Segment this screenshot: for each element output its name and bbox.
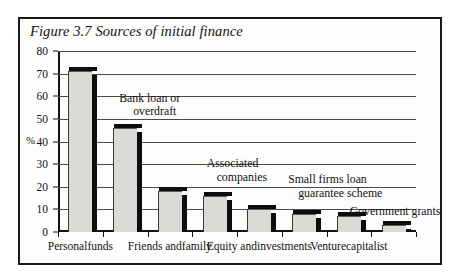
- gridline: [58, 142, 416, 143]
- gridline: [58, 119, 416, 120]
- x-label-line2: capitalist: [346, 240, 388, 252]
- bar: [113, 128, 137, 232]
- x-tick-mark: [282, 232, 283, 237]
- bar-shadow-right: [406, 229, 411, 232]
- y-tick-mark: [53, 118, 58, 119]
- chart-plot-area: 80706050403020100 % PersonalfundsFriends…: [58, 51, 416, 232]
- x-axis-label: Personalfunds: [48, 240, 113, 253]
- y-tick-mark: [53, 96, 58, 97]
- x-label-line2: investments: [257, 240, 312, 252]
- x-tick-mark: [148, 232, 149, 237]
- y-tick-label: 80: [37, 45, 49, 57]
- gridline: [58, 51, 416, 52]
- x-tick-mark: [192, 232, 193, 237]
- y-tick-label: 0: [42, 226, 48, 238]
- bar: [203, 196, 227, 232]
- figure-title: Figure 3.7 Sources of initial finance: [30, 23, 243, 40]
- bar-face-top: [293, 214, 316, 215]
- y-tick-mark: [53, 51, 58, 52]
- x-tick-mark: [237, 232, 238, 237]
- bar-annotation: Bank loan oroverdraft: [119, 92, 180, 119]
- annotation-line2: overdraft: [119, 105, 180, 119]
- y-tick-mark: [53, 73, 58, 74]
- bar-shadow-right: [227, 200, 232, 232]
- bar-shadow-right: [92, 75, 97, 232]
- bar-face-top: [159, 191, 182, 192]
- y-tick-label: 70: [37, 68, 49, 80]
- bar: [382, 225, 406, 232]
- y-tick-label: 40: [37, 136, 49, 148]
- x-tick-mark: [58, 232, 59, 237]
- annotation-line1: Associated: [207, 156, 259, 170]
- bar: [158, 191, 182, 232]
- bar-face-top: [383, 225, 406, 226]
- annotation-line2: guarantee scheme: [288, 187, 382, 201]
- bar-annotation: Small firms loanguarantee scheme: [288, 173, 382, 200]
- x-label-line2: funds: [87, 240, 113, 252]
- bar-face-top: [69, 71, 92, 72]
- annotation-line1: Government grants: [350, 204, 441, 218]
- x-label-line1: Venture: [310, 240, 346, 252]
- y-tick-label: 10: [37, 203, 49, 215]
- annotation-line2: companies: [207, 171, 267, 185]
- bar-shadow-right: [316, 218, 321, 232]
- y-tick-mark: [53, 164, 58, 165]
- y-tick-label: 20: [37, 181, 49, 193]
- bar-face-top: [114, 128, 137, 129]
- y-tick-mark: [53, 209, 58, 210]
- y-tick-mark: [53, 186, 58, 187]
- y-tick-label: 60: [37, 90, 49, 102]
- bar-face-top: [204, 196, 227, 197]
- bar-shadow-right: [271, 213, 276, 232]
- x-label-line1: Equity and: [207, 240, 257, 252]
- gridline: [58, 96, 416, 97]
- bar-shadow-right: [137, 132, 142, 232]
- x-tick-mark: [327, 232, 328, 237]
- x-tick-mark: [103, 232, 104, 237]
- bar: [292, 214, 316, 232]
- y-tick-label: 50: [37, 113, 49, 125]
- x-axis-label: Friends andfamily: [128, 240, 212, 253]
- bar-face-top: [248, 209, 271, 210]
- x-label-line1: Friends and: [128, 240, 182, 252]
- y-tick-label: 30: [37, 158, 49, 170]
- x-axis-label: Equity andinvestments: [207, 240, 312, 253]
- y-axis-unit-label: %: [26, 134, 35, 146]
- bar: [247, 209, 271, 232]
- annotation-line1: Small firms loan: [288, 172, 367, 186]
- gridline: [58, 74, 416, 75]
- bar: [337, 216, 361, 232]
- bar-annotation: Government grants: [350, 205, 441, 219]
- x-axis-label: Venturecapitalist: [310, 240, 387, 253]
- bar-shadow-right: [182, 195, 187, 232]
- bar-annotation: Associatedcompanies: [207, 157, 267, 184]
- annotation-line1: Bank loan or: [119, 91, 180, 105]
- bar-shadow-right: [361, 220, 366, 232]
- x-tick-mark: [371, 232, 372, 237]
- x-tick-mark: [416, 232, 417, 237]
- figure-frame: Figure 3.7 Sources of initial finance 80…: [18, 17, 442, 265]
- y-tick-mark: [53, 141, 58, 142]
- bar: [68, 71, 92, 232]
- x-label-line1: Personal: [48, 240, 88, 252]
